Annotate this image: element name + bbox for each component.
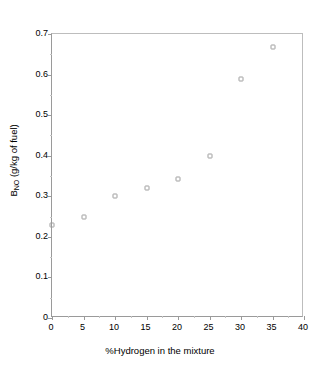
y-axis-minor-tick bbox=[50, 135, 52, 136]
x-axis-title: %Hydrogen in the mixture bbox=[0, 345, 320, 356]
y-axis-tick-label: 0.2 bbox=[8, 231, 48, 240]
x-axis-tick-label: 30 bbox=[225, 322, 255, 332]
x-axis-minor-tick bbox=[131, 316, 132, 318]
y-axis-tick bbox=[48, 115, 52, 116]
x-axis-tick bbox=[304, 316, 305, 320]
x-axis-tick bbox=[52, 316, 53, 320]
x-axis-tick bbox=[178, 316, 179, 320]
x-axis-tick-label: 25 bbox=[194, 322, 224, 332]
data-point bbox=[207, 153, 212, 158]
y-axis-minor-tick bbox=[50, 95, 52, 96]
x-axis-tick-label: 35 bbox=[257, 322, 287, 332]
y-axis-tick bbox=[48, 34, 52, 35]
x-axis-tick-label: 20 bbox=[162, 322, 192, 332]
x-axis-minor-tick bbox=[288, 316, 289, 318]
y-axis-minor-tick bbox=[50, 176, 52, 177]
y-axis-minor-tick bbox=[50, 217, 52, 218]
x-axis-minor-tick bbox=[68, 316, 69, 318]
data-point bbox=[239, 76, 244, 81]
data-point bbox=[270, 45, 275, 50]
plot-area bbox=[51, 33, 303, 317]
x-axis-minor-tick bbox=[194, 316, 195, 318]
x-axis-tick bbox=[84, 316, 85, 320]
y-axis-title-prefix: B bbox=[8, 190, 19, 196]
y-axis-tick bbox=[48, 277, 52, 278]
y-axis-tick-label: 0.7 bbox=[8, 29, 48, 38]
y-axis-title: BNO (g/kg of fuel) bbox=[8, 100, 23, 220]
scatter-chart-figure: 00.10.20.30.40.50.60.7 0510152025303540 … bbox=[0, 0, 320, 374]
x-axis-tick-label: 15 bbox=[131, 322, 161, 332]
x-axis-tick-label: 5 bbox=[68, 322, 98, 332]
x-axis-minor-tick bbox=[162, 316, 163, 318]
data-point bbox=[81, 214, 86, 219]
y-axis-tick-label: 0.1 bbox=[8, 272, 48, 281]
x-axis-minor-tick bbox=[99, 316, 100, 318]
data-point bbox=[113, 194, 118, 199]
x-axis-tick-label: 0 bbox=[36, 322, 66, 332]
data-point bbox=[144, 186, 149, 191]
y-axis-tick bbox=[48, 75, 52, 76]
y-axis-tick bbox=[48, 156, 52, 157]
y-axis-minor-tick bbox=[50, 298, 52, 299]
y-axis-tick-label: 0 bbox=[8, 313, 48, 322]
data-point bbox=[176, 176, 181, 181]
x-axis-tick bbox=[115, 316, 116, 320]
y-axis-tick bbox=[48, 237, 52, 238]
x-axis-tick bbox=[273, 316, 274, 320]
x-axis-minor-tick bbox=[225, 316, 226, 318]
y-axis-minor-tick bbox=[50, 257, 52, 258]
x-axis-tick bbox=[210, 316, 211, 320]
data-point bbox=[50, 222, 55, 227]
x-axis-tick-label: 10 bbox=[99, 322, 129, 332]
x-axis-tick bbox=[147, 316, 148, 320]
x-axis-minor-tick bbox=[257, 316, 258, 318]
y-axis-tick-label: 0.6 bbox=[8, 69, 48, 78]
y-axis-title-suffix: (g/kg of fuel) bbox=[8, 124, 19, 179]
y-axis-tick bbox=[48, 196, 52, 197]
x-axis-tick bbox=[241, 316, 242, 320]
y-axis-title-subscript: NO bbox=[13, 180, 20, 191]
x-axis-tick-label: 40 bbox=[288, 322, 318, 332]
y-axis-minor-tick bbox=[50, 54, 52, 55]
